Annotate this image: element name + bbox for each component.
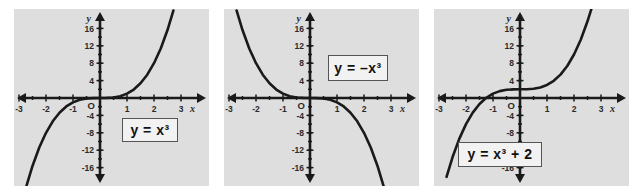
equation-label-text-3: y = x³ + 2 (468, 146, 533, 162)
y-tick-label: -8 (296, 128, 304, 138)
x-tick-label: 2 (152, 104, 157, 114)
y-tick-label: -8 (86, 128, 94, 138)
equation-label-box-2: y = –x³ (328, 55, 388, 81)
y-tick-label: 12 (85, 41, 95, 51)
graph-svg-1: -3-2-1123-16-12-8-4481216yxO (14, 9, 209, 186)
x-tick-label: 3 (389, 104, 394, 114)
y-tick-label: 16 (85, 24, 95, 34)
y-tick-label: 12 (505, 41, 515, 51)
y-tick-label: -8 (506, 128, 514, 138)
y-axis-arrow-down (95, 174, 105, 183)
graph-panel-1: -3-2-1123-16-12-8-4481216yxO (14, 9, 209, 186)
x-tick-label: -1 (489, 104, 497, 114)
x-tick-label: 1 (545, 104, 550, 114)
x-tick-label: -3 (435, 104, 443, 114)
x-axis-arrow-right (407, 93, 416, 103)
y-tick-label: 8 (509, 58, 514, 68)
y-axis-arrow-down (515, 174, 525, 183)
y-tick-label: -12 (292, 145, 305, 155)
y-tick-label: -4 (296, 111, 304, 121)
x-tick-label: 3 (599, 104, 604, 114)
x-tick-label: -1 (279, 104, 287, 114)
x-axis-label: x (189, 103, 195, 114)
x-tick-label: -2 (252, 104, 260, 114)
origin-label: O (298, 100, 305, 111)
x-axis-arrow-right (197, 93, 206, 103)
origin-label: O (88, 100, 95, 111)
y-tick-label: 4 (89, 76, 94, 86)
graph-panel-2: -3-2-1123-16-12-8-4481216yxO (224, 9, 419, 186)
x-tick-label: -3 (15, 104, 23, 114)
y-tick-label: 4 (299, 76, 304, 86)
x-tick-label: 2 (362, 104, 367, 114)
y-tick-label: -4 (86, 111, 94, 121)
x-tick-label: -2 (462, 104, 470, 114)
equation-label-text-1: y = x³ (130, 122, 169, 138)
y-tick-label: 4 (509, 76, 514, 86)
y-tick-label: -12 (82, 145, 95, 155)
y-axis-arrow-down (305, 174, 315, 183)
y-tick-label: 16 (295, 24, 305, 34)
y-tick-label: -16 (82, 163, 95, 173)
y-tick-label: 12 (295, 41, 305, 51)
x-tick-label: -3 (225, 104, 233, 114)
equation-label-box-3: y = x³ + 2 (458, 142, 542, 167)
x-tick-label: 3 (179, 104, 184, 114)
equation-label-box-1: y = x³ (122, 118, 178, 142)
x-tick-label: -1 (69, 104, 77, 114)
y-tick-label: -4 (506, 111, 514, 121)
graph-svg-2: -3-2-1123-16-12-8-4481216yxO (224, 9, 419, 186)
x-tick-label: 1 (125, 104, 130, 114)
x-axis-arrow-right (617, 93, 626, 103)
y-tick-label: -16 (292, 163, 305, 173)
y-axis-label: y (86, 13, 92, 24)
x-tick-label: -2 (42, 104, 50, 114)
y-tick-label: 8 (299, 58, 304, 68)
origin-label: O (508, 100, 515, 111)
y-tick-label: 8 (89, 58, 94, 68)
y-axis-label: y (296, 13, 302, 24)
cubic-functions-figure: -3-2-1123-16-12-8-4481216yxO y = x³ -3-2… (0, 0, 633, 196)
y-axis-label: y (506, 13, 512, 24)
x-tick-label: 1 (335, 104, 340, 114)
x-axis-label: x (399, 103, 405, 114)
equation-label-text-2: y = –x³ (334, 60, 381, 76)
x-tick-label: 2 (572, 104, 577, 114)
x-axis-label: x (609, 103, 615, 114)
y-tick-label: 16 (505, 24, 515, 34)
